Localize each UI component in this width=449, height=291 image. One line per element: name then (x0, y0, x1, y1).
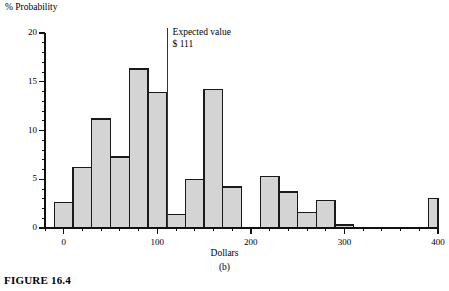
x-axis-tick-label: 300 (324, 237, 364, 247)
x-axis-tick-label: 0 (44, 237, 84, 247)
y-axis-title: % Probability (5, 2, 58, 13)
figure-container: % Probability Expected value $ 111 Dolla… (0, 0, 449, 291)
y-axis-tick-label: 5 (1, 173, 37, 183)
histogram-bar (92, 119, 111, 228)
x-axis-tick-label: 100 (137, 237, 177, 247)
histogram-bar (204, 90, 223, 228)
expected-value-line1: Expected value (173, 26, 231, 38)
y-axis-tick-label: 15 (1, 76, 37, 86)
y-axis-tick-label: 10 (1, 125, 37, 135)
histogram-bar (129, 69, 148, 228)
histogram-bars (54, 69, 438, 228)
histogram-bar (316, 201, 335, 228)
y-axis-tick-label: 20 (1, 27, 37, 37)
expected-value-line2: $ 111 (173, 38, 231, 50)
histogram-bar (223, 187, 242, 228)
histogram-bar (167, 214, 186, 228)
expected-value-annotation: Expected value $ 111 (173, 26, 231, 50)
histogram-bar (111, 157, 130, 228)
panel-label: (b) (0, 262, 449, 272)
x-axis-tick-label: 200 (231, 237, 271, 247)
figure-caption: FIGURE 16.4 (4, 274, 71, 286)
histogram-bar (185, 179, 204, 228)
histogram-bar (73, 168, 92, 228)
x-axis-tick-label: 400 (418, 237, 449, 247)
histogram-bar (148, 92, 167, 228)
y-axis-tick-label: 0 (1, 222, 37, 232)
histogram-bar (279, 192, 298, 228)
histogram-bar (54, 203, 73, 228)
x-axis-title: Dollars (0, 248, 449, 259)
histogram-bar (260, 176, 279, 228)
histogram-bar (298, 212, 317, 228)
histogram-bar (429, 199, 438, 228)
